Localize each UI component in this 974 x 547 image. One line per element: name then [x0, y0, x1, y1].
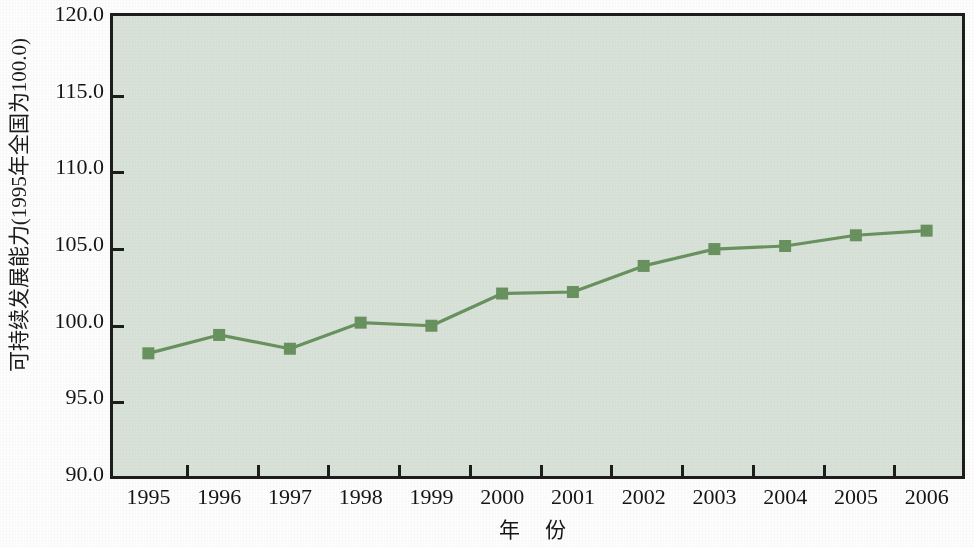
x-axis-tick-mark	[752, 465, 755, 476]
chart-figure: 可持续发展能力(1995年全国为100.0) 90.095.0100.0105.…	[0, 0, 974, 547]
y-axis-tick-label: 120.0	[12, 1, 104, 27]
y-axis-tick-label: 95.0	[12, 384, 104, 410]
x-axis-title: 年 份	[110, 513, 965, 543]
data-point-marker: 1997: 98.3	[284, 343, 296, 355]
series-line	[148, 231, 926, 354]
plot-inner: 1995: 981996: 99.21997: 98.31998: 100199…	[113, 16, 962, 476]
data-point-marker: 1996: 99.2	[213, 329, 225, 341]
y-axis-tick-mark	[113, 171, 124, 174]
line-series-svg: 1995: 981996: 99.21997: 98.31998: 100199…	[113, 16, 962, 476]
x-axis-tick-mark	[257, 465, 260, 476]
y-axis-tick-mark	[113, 95, 124, 98]
x-axis-tick-mark	[893, 465, 896, 476]
data-point-marker: 1995: 98	[142, 347, 154, 359]
data-point-marker: 2006: 106	[921, 225, 933, 237]
y-axis-tick-mark	[113, 248, 124, 251]
x-axis-tick-mark	[540, 465, 543, 476]
y-axis-tick-label: 105.0	[12, 231, 104, 257]
y-axis-tick-label: 90.0	[12, 461, 104, 487]
data-point-marker: 2003: 104.8	[708, 243, 720, 255]
x-axis-tick-mark	[186, 465, 189, 476]
data-point-marker: 2004: 105	[779, 240, 791, 252]
x-axis-tick-mark	[610, 465, 613, 476]
x-axis-tick-mark	[398, 465, 401, 476]
data-point-marker: 1999: 99.8	[425, 320, 437, 332]
y-axis-tick-label: 110.0	[12, 154, 104, 180]
y-axis-tick-labels: 90.095.0100.0105.0110.0115.0120.0	[8, 0, 104, 547]
data-point-marker: 2005: 105.7	[850, 229, 862, 241]
data-point-marker: 2002: 103.7	[638, 260, 650, 272]
y-axis-tick-label: 100.0	[12, 308, 104, 334]
plot-area: 1995: 981996: 99.21997: 98.31998: 100199…	[110, 13, 965, 479]
x-axis-tick-label: 2006	[877, 484, 974, 510]
data-point-marker: 2000: 101.9	[496, 288, 508, 300]
y-axis-tick-label: 115.0	[12, 78, 104, 104]
x-axis-tick-mark	[469, 465, 472, 476]
x-axis-tick-mark	[327, 465, 330, 476]
y-axis-tick-mark	[113, 401, 124, 404]
x-axis-tick-mark	[681, 465, 684, 476]
data-point-marker: 2001: 102	[567, 286, 579, 298]
x-axis-tick-mark	[823, 465, 826, 476]
data-point-marker: 1998: 100	[355, 317, 367, 329]
y-axis-tick-mark	[113, 325, 124, 328]
